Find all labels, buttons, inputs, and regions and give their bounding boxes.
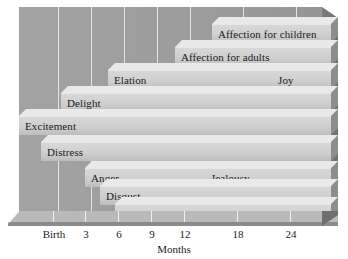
bar-top-face [41, 135, 338, 142]
bar-joy: Joy [272, 63, 338, 82]
bar-top-face [175, 40, 338, 47]
bar-top-face [212, 17, 338, 24]
bar-disgust: Disgust [100, 179, 338, 198]
axis-tick-label-4: 12 [180, 228, 191, 240]
bar-distress: Distress [41, 135, 338, 154]
bar-jealousy: Jealousy [205, 161, 338, 180]
bar-top-face [205, 161, 338, 168]
bar-excitement: Excitement [19, 109, 338, 128]
bar-delight: Delight [61, 86, 338, 105]
axis-tick-label-5: 18 [233, 228, 244, 240]
axis-tick-1 [85, 211, 86, 222]
bar-top-face [19, 109, 338, 116]
axis-tick-6 [290, 211, 291, 222]
bar-fear: Fear [115, 197, 338, 211]
axis-tick-label-0: Birth [43, 228, 66, 240]
plot-area: Affection for childrenAffection for adul… [19, 7, 338, 211]
bar-top-face [272, 63, 338, 70]
emotional-development-chart: Affection for childrenAffection for adul… [0, 0, 348, 259]
axis-tick-2 [118, 211, 119, 222]
axis-tick-0 [53, 211, 54, 222]
x-axis-title: Months [0, 243, 348, 255]
bar-front-face [41, 142, 331, 161]
axis-tick-5 [237, 211, 238, 222]
axis-tick-label-6: 24 [286, 228, 297, 240]
axis-tick-4 [184, 211, 185, 222]
bar-label: Distress [47, 143, 83, 161]
axis-tick-label-2: 6 [116, 228, 122, 240]
axis-tick-label-3: 9 [149, 228, 155, 240]
bar-label: Excitement [25, 117, 76, 135]
axis-tick-3 [151, 211, 152, 222]
bar-top-face [115, 197, 338, 204]
bar-front-face [115, 204, 331, 211]
bar-affection-for-adults: Affection for adults [175, 40, 338, 59]
axis-tick-label-1: 3 [83, 228, 89, 240]
bar-top-face [100, 179, 338, 186]
bar-top-face [61, 86, 338, 93]
bar-affection-for-children: Affection for children [212, 17, 338, 36]
